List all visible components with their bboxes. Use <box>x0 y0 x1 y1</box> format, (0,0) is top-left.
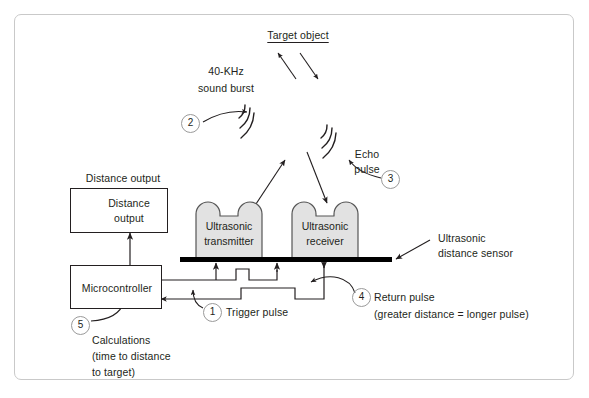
marker-1: 1 <box>203 303 222 322</box>
echo-pulse-label-line1: Echo <box>339 147 395 161</box>
return-pulse-label-line1: Return pulse <box>374 290 435 304</box>
calculations-label-line3: to target) <box>92 365 135 379</box>
marker-2: 2 <box>181 114 200 133</box>
target-object-label: Target object <box>243 28 353 42</box>
distance-output-box: Distance output <box>70 188 168 233</box>
distance-output-caption-text: Distance output <box>68 171 178 185</box>
distance-output-line1: Distance <box>93 196 165 210</box>
return-pulse-label-line2: (greater distance = longer pulse) <box>374 307 529 321</box>
microcontroller-box: Microcontroller <box>70 265 162 309</box>
trigger-pulse-label: Trigger pulse <box>226 305 288 319</box>
receiver-label-line2: receiver <box>290 234 360 248</box>
receiver-label-line1: Ultrasonic <box>290 219 360 233</box>
calculations-label-line2: (time to distance <box>92 349 171 363</box>
marker-4: 4 <box>352 288 371 307</box>
sound-burst-label-line1: 40-KHz <box>180 64 272 78</box>
sensor-callout-line1: Ultrasonic <box>438 231 486 245</box>
marker-3: 3 <box>381 170 400 189</box>
transmitter-label-line2: transmitter <box>194 234 264 248</box>
sound-burst-label-line2: sound burst <box>180 81 272 95</box>
marker-5: 5 <box>71 316 90 335</box>
diagram-canvas: Target object 40-KHz sound burst Echo pu… <box>0 0 589 398</box>
distance-output-line2: output <box>93 211 165 225</box>
sensor-callout-line2: distance sensor <box>438 246 513 260</box>
transmitter-label-line1: Ultrasonic <box>194 219 264 233</box>
microcontroller-label: Microcontroller <box>71 281 163 295</box>
ultrasonic-sensor-board <box>180 257 392 262</box>
calculations-label-line1: Calculations <box>92 333 150 347</box>
